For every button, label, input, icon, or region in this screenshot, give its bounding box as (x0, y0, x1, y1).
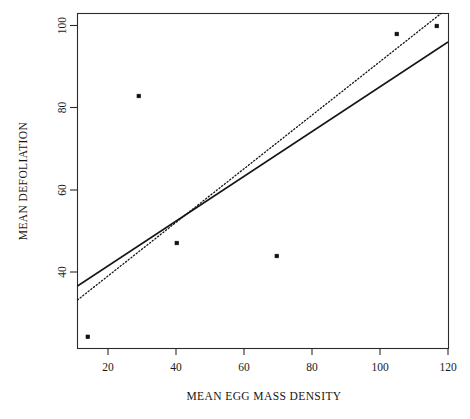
y-tick-label-100: 100 (56, 17, 68, 35)
y-axis-tick-labels: 100 80 60 40 (56, 17, 68, 278)
dotted-regression-line (78, 14, 442, 301)
data-point (435, 24, 439, 28)
x-tick-label-20: 20 (102, 361, 114, 373)
y-axis-ticks (70, 26, 77, 273)
data-point (175, 241, 179, 245)
data-point (275, 254, 279, 258)
plot-canvas: 100 80 60 40 20 40 60 80 100 120 MEAN EG… (0, 0, 470, 419)
data-points (86, 24, 439, 338)
plot-frame (78, 14, 449, 349)
solid-regression-line (78, 42, 449, 286)
y-axis-title: MEAN DEFOLIATION (17, 121, 29, 240)
regression-lines (78, 14, 449, 301)
x-tick-label-80: 80 (306, 361, 318, 373)
scatter-chart: 100 80 60 40 20 40 60 80 100 120 MEAN EG… (0, 0, 470, 419)
y-tick-label-80: 80 (56, 102, 68, 114)
x-axis-tick-labels: 20 40 60 80 100 120 (102, 361, 457, 373)
data-point (395, 32, 399, 36)
x-tick-label-40: 40 (170, 361, 182, 373)
data-point (137, 94, 141, 98)
x-axis-title: MEAN EGG MASS DENSITY (186, 390, 341, 402)
data-point (86, 335, 90, 339)
x-tick-label-120: 120 (439, 361, 457, 373)
y-tick-label-60: 60 (56, 184, 68, 196)
x-tick-label-100: 100 (371, 361, 389, 373)
x-tick-label-60: 60 (238, 361, 250, 373)
y-tick-label-40: 40 (56, 266, 68, 278)
